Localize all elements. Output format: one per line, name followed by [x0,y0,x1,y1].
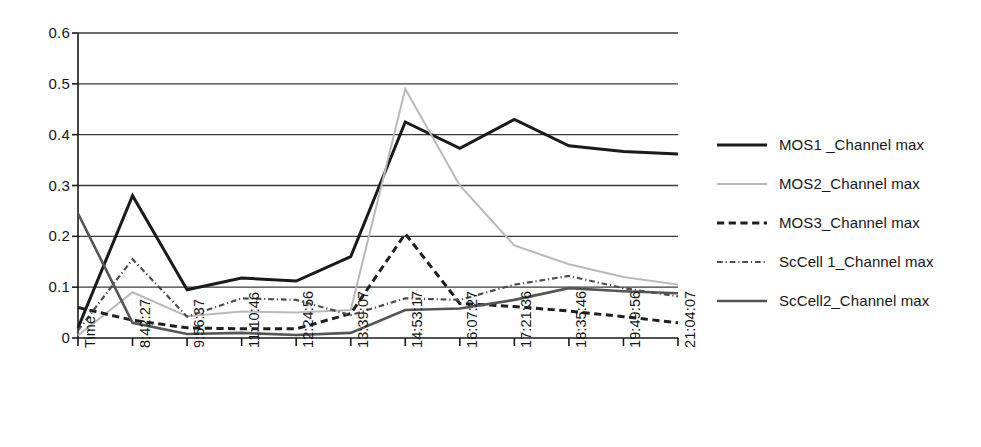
legend-label: MOS2_Channel max [779,175,920,192]
x-axis-tick-label-text: 12:24:56 [301,291,316,348]
legend-line-swatch [716,216,768,230]
x-axis-tick-label-text: 9:56:37 [192,299,207,348]
legend-item[interactable]: ScCell2_Channel max [716,281,981,320]
line-chart: 0.60.50.40.30.20.10 Time8:42:279:56:3711… [0,0,981,447]
legend-label: ScCell2_Channel max [779,292,929,309]
legend-label: ScCell 1_Channel max [779,253,934,270]
legend-label: MOS1 _Channel max [779,136,924,153]
x-axis-tick-label-text: 14:53:17 [410,291,425,348]
x-axis-tick-label-text: 18:35:46 [574,291,589,348]
legend-item[interactable]: MOS1 _Channel max [716,125,981,164]
x-axis-tick-label-text: 11:10:46 [247,292,262,348]
x-axis-tick-label-text: 21:04:07 [683,291,698,348]
x-axis-tick-label-text: Time [83,316,98,348]
legend-line-swatch [716,255,768,269]
legend-line-swatch [716,177,768,191]
x-axis-tick-label-text: 19:49:56 [628,291,643,348]
legend-item[interactable]: MOS2_Channel max [716,164,981,203]
legend-item[interactable]: ScCell 1_Channel max [716,242,981,281]
x-axis-tick-label-text: 16:07:27 [465,291,480,348]
legend-line-swatch [716,294,768,308]
x-axis-tick-label-text: 17:21:36 [519,291,534,348]
legend-line-swatch [716,138,768,152]
chart-legend: MOS1 _Channel maxMOS2_Channel maxMOS3_Ch… [716,125,981,320]
legend-item[interactable]: MOS3_Channel max [716,203,981,242]
legend-label: MOS3_Channel max [779,214,920,231]
x-axis-tick-label-text: 8:42:27 [138,299,153,348]
x-axis-tick-label-text: 13:39:07 [356,291,371,348]
